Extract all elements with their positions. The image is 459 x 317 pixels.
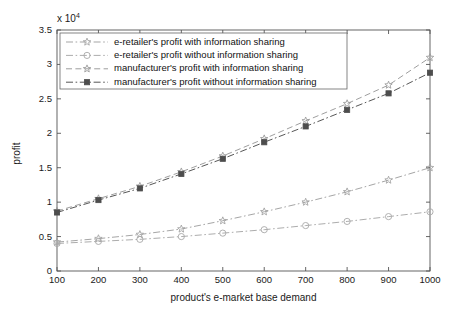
data-point	[386, 91, 391, 96]
data-point	[343, 100, 350, 107]
data-point	[220, 156, 225, 161]
y-axis-exponent: x 104	[57, 12, 80, 24]
x-tick-label: 600	[244, 274, 284, 285]
series-line	[57, 168, 430, 242]
chart-canvas	[0, 0, 459, 317]
data-point	[385, 81, 392, 88]
y-tick-label: 2.5	[22, 93, 52, 104]
x-tick-label: 700	[286, 274, 326, 285]
legend-marker-3	[84, 80, 89, 85]
x-tick-label: 900	[369, 274, 409, 285]
y-tick-label: 1	[22, 196, 52, 207]
y-tick-label: 3	[22, 58, 52, 69]
series-1	[54, 209, 433, 247]
x-tick-label: 400	[161, 274, 201, 285]
data-point	[96, 197, 101, 202]
y-axis-label: profit	[11, 124, 22, 184]
y-axis-exponent-text: x 10	[57, 13, 76, 24]
series-line	[57, 212, 430, 244]
x-tick-label: 500	[203, 274, 243, 285]
x-tick-label: 300	[120, 274, 160, 285]
x-tick-label: 800	[327, 274, 367, 285]
y-tick-label: 0.5	[22, 231, 52, 242]
legend-box	[60, 33, 347, 89]
data-point	[137, 186, 142, 191]
series-3	[54, 70, 432, 215]
y-tick-label: 0	[22, 265, 52, 276]
x-tick-label: 1000	[410, 274, 450, 285]
series-0	[53, 164, 433, 245]
data-point	[303, 124, 308, 129]
data-point	[262, 140, 267, 145]
data-point	[345, 107, 350, 112]
y-tick-label: 3.5	[22, 24, 52, 35]
y-tick-label: 2	[22, 127, 52, 138]
x-tick-label: 200	[78, 274, 118, 285]
data-point	[54, 210, 59, 215]
data-point	[427, 70, 432, 75]
x-axis-label: product's e-market base demand	[57, 292, 430, 303]
y-axis-exponent-power: 4	[76, 12, 80, 19]
series-line	[57, 73, 430, 213]
data-point	[179, 171, 184, 176]
figure-container: x 104 profit product's e-market base dem…	[0, 0, 459, 317]
y-tick-label: 1.5	[22, 162, 52, 173]
